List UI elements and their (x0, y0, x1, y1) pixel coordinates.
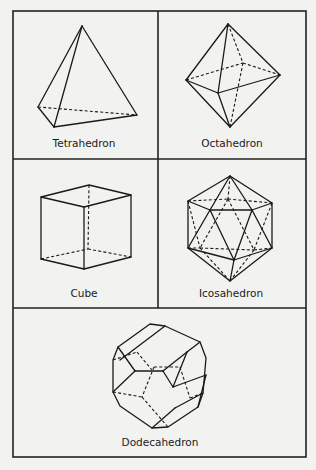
panel-dodecahedron: Dodecahedron (113, 324, 206, 448)
label-dodecahedron: Dodecahedron (122, 436, 199, 448)
panel-icosahedron: Icosahedron (188, 176, 272, 299)
platonic-solids-figure: Tetrahedron Octahedron (0, 0, 316, 470)
panel-octahedron: Octahedron (186, 24, 280, 149)
label-octahedron: Octahedron (201, 137, 263, 149)
panel-cube: Cube (41, 185, 131, 299)
label-icosahedron: Icosahedron (199, 287, 263, 299)
cube-icon (41, 185, 131, 269)
dodecahedron-icon (113, 324, 206, 428)
tetrahedron-icon (38, 26, 137, 127)
label-tetrahedron: Tetrahedron (52, 137, 116, 149)
panel-tetrahedron: Tetrahedron (38, 26, 137, 149)
figure-frame (13, 11, 306, 457)
label-cube: Cube (70, 287, 97, 299)
icosahedron-icon (188, 176, 272, 281)
octahedron-icon (186, 24, 280, 127)
outer-border (13, 11, 306, 457)
